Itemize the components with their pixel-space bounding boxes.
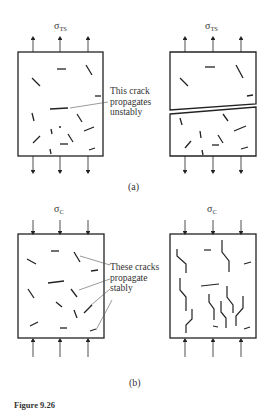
stress-label-compressive-left: σC <box>54 203 64 215</box>
figure-caption: Figure 9.26 <box>14 400 55 410</box>
compression-specimen-cracked <box>170 220 256 357</box>
compression-specimen-initial <box>18 220 112 357</box>
crack-diagram <box>0 0 271 412</box>
unstable-crack-annotation: This crack propagates unstably <box>110 86 151 118</box>
stress-label-compressive-right: σC <box>207 203 217 215</box>
stress-label-tensile-left: σTS <box>54 20 67 32</box>
stable-cracks-annotation: These cracks propagate stably <box>110 262 159 294</box>
panel-label-a: (a) <box>128 181 139 192</box>
tension-specimen-intact <box>18 38 108 172</box>
tension-specimen-fractured <box>170 38 256 172</box>
stress-label-tensile-right: σTS <box>205 20 218 32</box>
panel-label-b: (b) <box>129 377 141 388</box>
